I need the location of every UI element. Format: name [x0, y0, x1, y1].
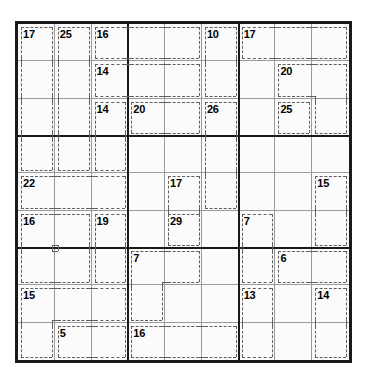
grid-cell-r2c1[interactable]	[18, 61, 55, 98]
grid-cell-r4c7[interactable]	[239, 136, 276, 173]
grid-cell-r1c9[interactable]	[312, 24, 349, 61]
cage-sum-label: 17	[23, 29, 35, 40]
cage-border-bottom	[278, 133, 309, 134]
cage-border-left	[58, 27, 59, 58]
cage-border-bottom	[278, 96, 309, 97]
grid-cell-r2c4[interactable]	[128, 61, 165, 98]
grid-cell-r5c8[interactable]	[275, 173, 312, 210]
cage-border-right	[125, 214, 126, 245]
cage-border-bottom	[131, 320, 162, 321]
grid-cell-r8c2[interactable]	[55, 285, 92, 322]
grid-cell-r8c8[interactable]	[275, 285, 312, 322]
cage-border-right	[162, 288, 163, 319]
cage-sum-label: 15	[23, 290, 35, 301]
grid-cell-r3c9[interactable]	[312, 99, 349, 136]
grid-cell-r8c3[interactable]	[92, 285, 129, 322]
cage-border-bottom	[205, 96, 236, 97]
cage-border-top	[58, 214, 89, 215]
grid-cell-r6c6[interactable]	[202, 211, 239, 248]
grid-cell-r5c2[interactable]	[55, 173, 92, 210]
cage-border-bottom	[95, 320, 126, 321]
cage-border-join	[89, 357, 95, 358]
grid-cell-r3c7[interactable]	[239, 99, 276, 136]
cage-border-join	[309, 58, 315, 59]
grid-cell-r8c4[interactable]	[128, 285, 165, 322]
cage-border-top	[278, 27, 309, 28]
cage-sum-label: 14	[97, 66, 109, 77]
grid-cell-r5c6[interactable]	[202, 173, 239, 210]
cage-border-join	[125, 27, 131, 28]
cage-border-bottom	[95, 208, 126, 209]
cage-border-top	[168, 326, 199, 327]
cage-sum-label: 16	[23, 216, 35, 227]
cage-border-bottom	[315, 282, 346, 283]
grid-cell-r2c5[interactable]	[165, 61, 202, 98]
cage-border-join	[162, 326, 168, 327]
grid-cell-r9c1[interactable]	[18, 323, 55, 360]
grid-cell-r4c3[interactable]	[92, 136, 129, 173]
cage-sum-label: 17	[170, 178, 182, 189]
cage-border-left	[131, 102, 132, 133]
cage-border-right	[199, 214, 200, 245]
cage-border-bottom	[168, 133, 199, 134]
cage-border-top	[168, 251, 199, 252]
cage-border-top	[168, 27, 199, 28]
grid-cell-r2c6[interactable]	[202, 61, 239, 98]
cage-border-left	[58, 326, 59, 357]
grid-cell-r7c6[interactable]	[202, 248, 239, 285]
cage-border-join	[52, 251, 58, 252]
grid-cell-r2c9[interactable]	[312, 61, 349, 98]
grid-cell-r7c3[interactable]	[92, 248, 129, 285]
cage-border-join	[309, 282, 315, 283]
grid-cell-r1c5[interactable]	[165, 24, 202, 61]
cage-border-bottom	[205, 208, 236, 209]
grid-cell-r4c8[interactable]	[275, 136, 312, 173]
grid-cell-r3c5[interactable]	[165, 99, 202, 136]
cage-border-bottom	[58, 357, 89, 358]
grid-cell-r1c4[interactable]	[128, 24, 165, 61]
grid-cell-r6c2[interactable]	[55, 211, 92, 248]
grid-cell-r4c5[interactable]	[165, 136, 202, 173]
grid-cell-r5c3[interactable]	[92, 173, 129, 210]
grid-cell-r5c7[interactable]	[239, 173, 276, 210]
grid-cell-r9c8[interactable]	[275, 323, 312, 360]
grid-cell-r6c4[interactable]	[128, 211, 165, 248]
grid-cell-r9c6[interactable]	[202, 323, 239, 360]
grid-cell-r6c9[interactable]	[312, 211, 349, 248]
grid-cell-r7c7[interactable]	[239, 248, 276, 285]
grid-cell-r8c6[interactable]	[202, 285, 239, 322]
cage-border-right	[236, 27, 237, 58]
cage-border-right	[89, 251, 90, 282]
cage-border-left	[205, 64, 206, 95]
cage-border-right	[52, 64, 53, 95]
grid-cell-r3c1[interactable]	[18, 99, 55, 136]
grid-cell-r4c9[interactable]	[312, 136, 349, 173]
grid-cell-r9c9[interactable]	[312, 323, 349, 360]
grid-cell-r7c2[interactable]	[55, 248, 92, 285]
grid-cell-r7c9[interactable]	[312, 248, 349, 285]
grid-cell-r4c6[interactable]	[202, 136, 239, 173]
cage-border-left	[58, 64, 59, 95]
grid-cell-r4c1[interactable]	[18, 136, 55, 173]
cage-sum-label: 5	[60, 328, 66, 339]
grid-cell-r8c5[interactable]	[165, 285, 202, 322]
grid-cell-r2c2[interactable]	[55, 61, 92, 98]
cage-border-join	[162, 133, 168, 134]
grid-cell-r7c5[interactable]	[165, 248, 202, 285]
grid-cell-r3c2[interactable]	[55, 99, 92, 136]
cage-border-bottom	[21, 357, 52, 358]
grid-cell-r9c5[interactable]	[165, 323, 202, 360]
grid-cell-r4c2[interactable]	[55, 136, 92, 173]
grid-cell-r9c7[interactable]	[239, 323, 276, 360]
killer-sudoku-grid[interactable]: 1725161017142014202625221715161929776151…	[15, 21, 352, 363]
grid-cell-r6c8[interactable]	[275, 211, 312, 248]
grid-cell-r5c4[interactable]	[128, 173, 165, 210]
grid-cell-r1c8[interactable]	[275, 24, 312, 61]
cage-border-bottom	[315, 245, 346, 246]
cage-border-left	[21, 27, 22, 58]
grid-cell-r4c4[interactable]	[128, 136, 165, 173]
grid-cell-r9c3[interactable]	[92, 323, 129, 360]
grid-cell-r2c7[interactable]	[239, 61, 276, 98]
grid-cell-r7c1[interactable]	[18, 248, 55, 285]
cage-border-bottom	[131, 96, 162, 97]
